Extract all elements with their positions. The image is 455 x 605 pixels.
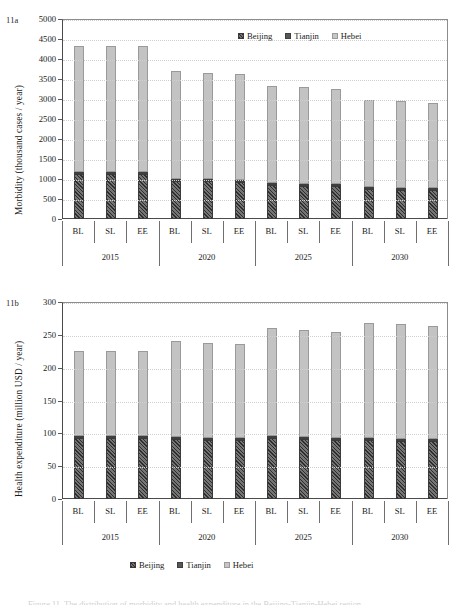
x-axis-category-label: BL	[255, 506, 287, 516]
stacked-bar	[138, 351, 148, 499]
bar-segment-beijing	[331, 186, 341, 219]
stacked-bar	[299, 330, 309, 499]
chart-panel-11a: 11a Morbidity (thousand cases / year) 05…	[0, 0, 455, 290]
stacked-bar	[396, 324, 406, 499]
x-axis-category-label: SL	[287, 506, 319, 516]
x-axis-category-label: SL	[191, 226, 223, 236]
x-axis-category-label: SL	[384, 506, 416, 516]
y-axis-tick	[58, 19, 62, 20]
x-axis-category-label: BL	[255, 226, 287, 236]
legend-label: Tianjin	[186, 560, 211, 570]
x-axis-group-label: 2015	[62, 252, 159, 262]
x-axis-category-label: SL	[287, 226, 319, 236]
y-axis-tick	[58, 139, 62, 140]
x-axis-category-label: EE	[319, 226, 351, 236]
stacked-bar	[235, 74, 245, 219]
legend-swatch-beijing-icon	[238, 33, 244, 39]
gridline	[63, 140, 447, 141]
y-axis-tick-label: 1500	[18, 154, 56, 164]
gridline	[63, 120, 447, 121]
x-axis-category-label: EE	[126, 226, 158, 236]
bar-segment-beijing	[267, 438, 277, 499]
bar-segment-beijing	[138, 438, 148, 499]
legend-swatch-tianjin-icon	[177, 562, 183, 568]
y-axis-tick	[58, 335, 62, 336]
legend-swatch-hebei-icon	[332, 33, 338, 39]
bar-segment-hebei	[235, 344, 245, 438]
y-axis-tick-label: 5000	[18, 14, 56, 24]
gridline	[63, 160, 447, 161]
bar-segment-hebei	[331, 89, 341, 184]
stacked-bar	[106, 351, 116, 499]
stacked-bar	[171, 71, 181, 219]
x-axis-group-separator	[448, 501, 449, 545]
x-axis-category-label: SL	[384, 226, 416, 236]
stacked-bar	[106, 46, 116, 219]
y-axis-tick	[58, 159, 62, 160]
bar-segment-hebei	[138, 351, 148, 436]
bar-segment-hebei	[267, 328, 277, 436]
x-axis-category-label: SL	[94, 506, 126, 516]
x-axis-category-label: SL	[191, 506, 223, 516]
legend-item-hebei: Hebei	[224, 560, 254, 570]
legend-item-tianjin: Tianjin	[177, 560, 211, 570]
bar-segment-hebei	[396, 324, 406, 439]
y-axis-tick-label: 4500	[18, 34, 56, 44]
bar-segment-hebei	[364, 323, 374, 438]
y-axis-tick-label: 300	[18, 297, 56, 307]
figure-11: 11a Morbidity (thousand cases / year) 05…	[0, 0, 455, 605]
x-axis-group-label: 2015	[62, 532, 159, 542]
y-axis-tick	[58, 59, 62, 60]
gridline	[63, 467, 447, 468]
bar-segment-beijing	[396, 441, 406, 499]
y-axis-tick-label: 4000	[18, 54, 56, 64]
bar-segment-hebei	[74, 46, 84, 172]
panel-label-11a: 11a	[6, 15, 19, 25]
y-axis-tick-label: 50	[18, 461, 56, 471]
legend-swatch-tianjin-icon	[285, 33, 291, 39]
x-axis-group-separator	[448, 221, 449, 266]
x-axis-group-label: 2030	[352, 532, 449, 542]
stacked-bar	[74, 46, 84, 219]
bar-segment-beijing	[235, 440, 245, 499]
legend-label: Beijing	[139, 560, 164, 570]
gridline	[63, 200, 447, 201]
x-axis-category-label: EE	[416, 506, 448, 516]
y-axis-tick-label: 2000	[18, 134, 56, 144]
y-axis-tick-label: 150	[18, 396, 56, 406]
x-axis-group-label: 2030	[352, 252, 449, 262]
legend-label: Tianjin	[294, 31, 319, 41]
legend-11a: BeijingTianjinHebei	[238, 31, 361, 41]
gridline	[63, 80, 447, 81]
gridline	[63, 60, 447, 61]
legend-11b: BeijingTianjinHebei	[130, 560, 253, 570]
bar-segment-hebei	[428, 103, 438, 188]
stacked-bar	[331, 332, 341, 499]
stacked-bar	[428, 326, 438, 499]
y-axis-tick-label: 500	[18, 194, 56, 204]
x-axis-category-label: BL	[159, 506, 191, 516]
x-axis-category-label: EE	[416, 226, 448, 236]
y-axis-tick	[58, 179, 62, 180]
x-axis-group-label: 2020	[159, 252, 256, 262]
y-axis-tick-label: 1000	[18, 174, 56, 184]
x-axis-category-label: BL	[62, 506, 94, 516]
gridline	[63, 434, 447, 435]
y-axis-tick-label: 100	[18, 428, 56, 438]
stacked-bar	[203, 343, 213, 499]
bar-segment-beijing	[171, 439, 181, 499]
x-axis-group-label: 2025	[255, 532, 352, 542]
x-axis-group-label: 2020	[159, 532, 256, 542]
legend-item-beijing: Beijing	[130, 560, 164, 570]
y-axis-tick-label: 0	[18, 214, 56, 224]
bar-segment-hebei	[171, 71, 181, 179]
y-axis-tick	[58, 79, 62, 80]
bar-segment-beijing	[299, 439, 309, 499]
y-axis-tick	[58, 466, 62, 467]
bar-segment-hebei	[364, 100, 374, 187]
plot-area-11a	[62, 19, 448, 219]
legend-label: Hebei	[233, 560, 254, 570]
bar-segment-beijing	[299, 186, 309, 219]
stacked-bar	[267, 328, 277, 499]
gridline	[63, 336, 447, 337]
